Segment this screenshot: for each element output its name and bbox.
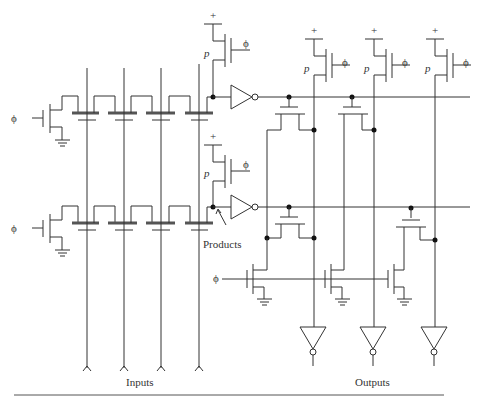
supply-label-3: + — [311, 24, 317, 36]
outputs-label: Outputs — [355, 376, 390, 388]
supply-label-1: + — [210, 9, 216, 21]
input-lines — [83, 64, 203, 371]
output-eval-transistors — [222, 238, 412, 305]
clock-label-pre-2: ϕ — [243, 158, 249, 170]
clock-label-pre-4: ϕ — [402, 56, 408, 68]
pmos-label-2: p — [203, 167, 210, 179]
clock-label-pre-1: ϕ — [243, 37, 249, 49]
supply-label-2: + — [210, 130, 216, 142]
and-plane-row-1 — [32, 96, 213, 146]
supply-label-5: + — [432, 24, 438, 36]
pmos-label-5: p — [424, 62, 431, 74]
output-inverters — [300, 327, 447, 366]
product-2-precharge — [204, 145, 470, 225]
inputs-label: Inputs — [126, 376, 154, 388]
pmos-label-1: p — [203, 47, 210, 59]
pla-circuit-diagram: ϕ ϕ + + + + + p p p p p ϕ ϕ ϕ ϕ ϕ ϕ Prod… — [0, 0, 480, 403]
clock-label-pre-3: ϕ — [342, 56, 348, 68]
clock-label-pre-5: ϕ — [463, 56, 469, 68]
clock-label-eval: ϕ — [213, 272, 219, 284]
pmos-label-4: p — [363, 62, 370, 74]
output-precharge-1 — [305, 39, 350, 327]
supply-label-4: + — [371, 24, 377, 36]
pmos-label-3: p — [303, 62, 310, 74]
clock-label-row-2: ϕ — [11, 222, 17, 234]
or-plane — [265, 95, 438, 271]
and-plane-row-2 — [32, 206, 213, 256]
labels: ϕ ϕ + + + + + p p p p p ϕ ϕ ϕ ϕ ϕ ϕ Prod… — [11, 9, 469, 388]
products-label: Products — [203, 238, 242, 250]
output-precharge-3 — [426, 39, 471, 327]
clock-label-row-1: ϕ — [11, 112, 17, 124]
